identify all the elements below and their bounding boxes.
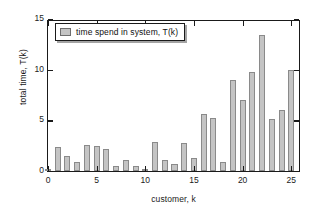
x-tick-label: 0 [38,175,58,185]
y-axis-label: total time, T(k) [16,2,30,152]
bar [84,145,90,171]
bar [162,160,168,171]
y-tick-mark [48,70,53,71]
bar [55,147,61,171]
bar [103,149,109,171]
y-tick-mark-right [294,70,299,71]
y-tick-label: 15 [35,13,44,23]
plot-area: 051015 0510152025 [47,20,300,172]
bar [152,142,158,171]
y-tick-mark-right [294,19,299,20]
bar [171,164,177,171]
bar [123,160,129,171]
bar [64,156,70,171]
bar [74,162,80,171]
plot-inner: 051015 0510152025 [48,21,299,171]
y-tick-label: 10 [35,64,44,74]
y-tick-mark [48,19,53,20]
legend-swatch-icon [60,28,71,36]
bar [230,80,236,171]
x-tick-mark-top [243,21,244,26]
x-tick-label: 25 [281,175,301,185]
bar [133,166,139,171]
bar [259,35,265,171]
x-tick-label: 5 [87,175,107,185]
x-tick-mark-top [291,21,292,26]
x-tick-mark [145,166,146,171]
y-tick-label: 5 [39,114,44,124]
bar [201,114,207,171]
bar [240,100,246,171]
bar-chart-figure: total time, T(k) 051015 0510152025 custo… [0,0,313,216]
y-tick-mark [48,171,53,172]
x-axis-label: customer, k [47,194,300,204]
x-tick-label: 20 [233,175,253,185]
x-tick-mark [194,166,195,171]
x-tick-mark [97,166,98,171]
bar [279,110,285,171]
bar [113,166,119,171]
y-tick-mark [48,120,53,121]
bar [181,143,187,171]
y-tick-mark-right [294,120,299,121]
y-tick-mark-right [294,171,299,172]
bar [210,118,216,171]
legend-entry-label: time spend in system, T(k) [76,27,178,37]
bar [249,72,255,171]
chart-legend: time spend in system, T(k) [55,23,185,41]
x-tick-mark [48,166,49,171]
x-tick-mark-top [48,21,49,26]
x-tick-label: 10 [135,175,155,185]
bar [220,162,226,171]
x-tick-mark [291,166,292,171]
y-tick-label: 0 [39,165,44,175]
x-tick-mark [243,166,244,171]
bar [269,119,275,171]
x-tick-mark-top [194,21,195,26]
x-tick-label: 15 [184,175,204,185]
